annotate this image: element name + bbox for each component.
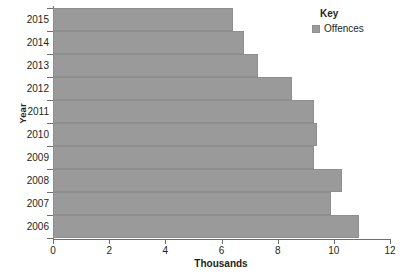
y-axis-tick-label: 2008	[14, 169, 50, 192]
bar-slot	[53, 77, 390, 100]
x-axis-tick	[222, 239, 223, 244]
bar-slot	[53, 192, 390, 215]
y-axis-tick-label: 2014	[14, 31, 50, 54]
x-axis-tick	[53, 239, 54, 244]
bar[interactable]	[53, 100, 314, 123]
legend-title: Key	[320, 8, 398, 20]
bar[interactable]	[53, 31, 244, 54]
y-axis-tick-label: 2013	[14, 54, 50, 77]
y-axis-tick-label: 2009	[14, 146, 50, 169]
bar[interactable]	[53, 123, 317, 146]
bar-slot	[53, 54, 390, 77]
bar[interactable]	[53, 192, 331, 215]
x-axis-tick-label: 4	[150, 245, 180, 257]
y-axis-tick-label: 2015	[14, 8, 50, 31]
bar[interactable]	[53, 215, 359, 238]
y-axis-tick-label: 2010	[14, 123, 50, 146]
legend-label: Offences	[324, 23, 364, 35]
bar[interactable]	[53, 54, 258, 77]
x-axis-tick	[278, 239, 279, 244]
bar[interactable]	[53, 169, 342, 192]
x-axis-tick	[390, 239, 391, 244]
plot-area	[53, 8, 390, 238]
x-axis-tick-label: 12	[375, 245, 402, 257]
bar-slot	[53, 146, 390, 169]
x-axis-tick	[165, 239, 166, 244]
legend-entry[interactable]: Offences	[312, 23, 398, 35]
x-axis-tick-label: 10	[319, 245, 349, 257]
bar-slot	[53, 100, 390, 123]
x-axis-title: Thousands	[0, 258, 402, 269]
bar-slot	[53, 123, 390, 146]
x-axis-tick	[109, 239, 110, 244]
legend: Key Offences	[312, 8, 398, 35]
legend-entries: Offences	[312, 23, 398, 35]
x-axis-tick-labels: 024681012	[0, 245, 402, 259]
bar-slot	[53, 169, 390, 192]
y-axis-tick-label: 2012	[14, 77, 50, 100]
bar-chart: Year 20152014201320122011201020092008200…	[0, 0, 402, 274]
y-axis-tick-label: 2007	[14, 192, 50, 215]
bar-series-offences	[53, 8, 390, 238]
bar-slot	[53, 215, 390, 238]
bar[interactable]	[53, 8, 233, 31]
bar[interactable]	[53, 77, 292, 100]
y-axis-tick-label: 2011	[14, 100, 50, 123]
bar[interactable]	[53, 146, 314, 169]
legend-swatch-icon	[312, 25, 320, 33]
y-axis-tick-labels: 2015201420132012201120102009200820072006	[14, 8, 50, 238]
x-axis-tick	[334, 239, 335, 244]
x-axis-tick-label: 0	[38, 245, 68, 257]
x-axis-tick-label: 6	[207, 245, 237, 257]
y-axis-tick-label: 2006	[14, 215, 50, 238]
x-axis-tick-label: 8	[263, 245, 293, 257]
x-axis-tick-label: 2	[94, 245, 124, 257]
